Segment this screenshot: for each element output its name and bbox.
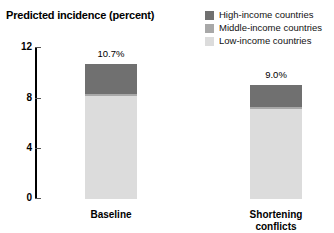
- y-axis-line: [35, 47, 37, 199]
- y-axis-label-12: 12: [10, 41, 32, 52]
- bar-segment-high-income: [250, 85, 302, 107]
- bar-shortening-conflicts: [250, 85, 302, 199]
- y-axis-tick-4: [35, 148, 41, 149]
- bar-segment-low-income: [85, 96, 137, 199]
- bar-value-baseline: 10.7%: [75, 48, 147, 59]
- y-axis-tick-0: [35, 198, 41, 199]
- bar-baseline: [85, 64, 137, 200]
- y-axis-label-0: 0: [10, 192, 32, 203]
- plot-area: 12 8 4 0 10.7% Baseline 9.0% Shortening …: [0, 0, 334, 233]
- y-axis-tick-12: [35, 47, 41, 48]
- category-label-line-2: conflicts: [255, 221, 296, 232]
- category-label-baseline: Baseline: [56, 209, 166, 221]
- category-label-shortening-conflicts: Shortening conflicts: [221, 209, 331, 232]
- bar-segment-low-income: [250, 109, 302, 199]
- y-axis-tick-8: [35, 98, 41, 99]
- bar-segment-high-income: [85, 64, 137, 94]
- y-axis-label-8: 8: [10, 92, 32, 103]
- y-axis-label-4: 4: [10, 142, 32, 153]
- chart-container: Predicted incidence (percent) High-incom…: [0, 0, 334, 233]
- category-label-line-1: Shortening: [250, 209, 303, 220]
- bar-value-shortening-conflicts: 9.0%: [240, 69, 312, 80]
